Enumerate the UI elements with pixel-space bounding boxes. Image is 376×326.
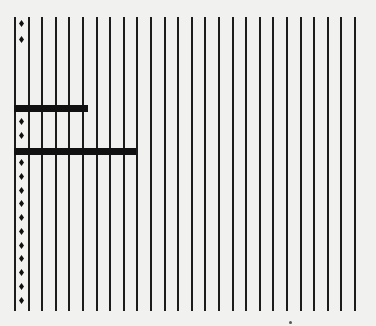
scan-speck — [289, 321, 292, 324]
diamond-marker-icon — [19, 173, 24, 180]
vertical-line — [68, 17, 70, 311]
horizontal-bar — [14, 148, 136, 155]
vertical-line — [340, 17, 342, 311]
vertical-line — [136, 17, 138, 311]
vertical-line — [150, 17, 152, 311]
vertical-line — [14, 17, 16, 311]
vertical-line — [164, 17, 166, 311]
diamond-marker-icon — [19, 297, 24, 304]
vertical-line — [177, 17, 179, 311]
horizontal-bar — [14, 105, 88, 112]
diamond-marker-icon — [19, 242, 24, 249]
diamond-marker-icon — [19, 228, 24, 235]
diamond-marker-icon — [19, 159, 24, 166]
vertical-line — [313, 17, 315, 311]
vertical-line — [245, 17, 247, 311]
diamond-marker-icon — [19, 20, 24, 27]
vertical-line — [272, 17, 274, 311]
vertical-line — [232, 17, 234, 311]
vertical-line — [300, 17, 302, 311]
vertical-line — [218, 17, 220, 311]
vertical-line — [354, 17, 356, 311]
diamond-marker-icon — [19, 118, 24, 125]
diamond-marker-icon — [19, 132, 24, 139]
diamond-marker-icon — [19, 200, 24, 207]
diamond-marker-icon — [19, 283, 24, 290]
diamond-marker-icon — [19, 255, 24, 262]
vertical-line — [191, 17, 193, 311]
diamond-marker-icon — [19, 187, 24, 194]
vertical-line — [96, 17, 98, 311]
diamond-marker-icon — [19, 36, 24, 43]
vertical-line — [204, 17, 206, 311]
diamond-marker-icon — [19, 269, 24, 276]
vertical-line — [55, 17, 57, 311]
vertical-line — [109, 17, 111, 311]
vertical-line — [41, 17, 43, 311]
diamond-marker-icon — [19, 214, 24, 221]
vertical-line — [123, 17, 125, 311]
line-grid-diagram — [0, 0, 376, 326]
vertical-line — [28, 17, 30, 311]
vertical-line — [82, 17, 84, 311]
vertical-line — [286, 17, 288, 311]
vertical-line — [327, 17, 329, 311]
vertical-line — [259, 17, 261, 311]
